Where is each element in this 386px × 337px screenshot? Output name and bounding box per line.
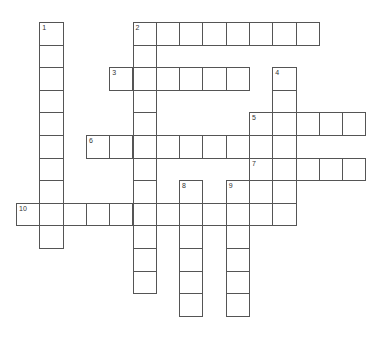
clue-number: 2 <box>136 24 140 31</box>
clue-number: 9 <box>229 182 233 189</box>
crossword-cell[interactable] <box>109 135 133 159</box>
crossword-cell[interactable] <box>272 135 296 159</box>
crossword-cell[interactable] <box>179 225 203 249</box>
crossword-cell[interactable] <box>226 22 250 46</box>
crossword-cell[interactable]: 5 <box>249 112 273 136</box>
clue-number: 3 <box>112 69 116 76</box>
crossword-cell[interactable] <box>39 225 63 249</box>
crossword-cell[interactable] <box>319 158 343 182</box>
clue-number: 6 <box>89 137 93 144</box>
crossword-cell[interactable] <box>133 67 157 91</box>
crossword-cell[interactable] <box>202 22 226 46</box>
clue-number: 7 <box>252 160 256 167</box>
crossword-cell[interactable] <box>226 248 250 272</box>
crossword-cell[interactable] <box>156 67 180 91</box>
crossword-cell[interactable] <box>272 22 296 46</box>
crossword-cell[interactable] <box>249 22 273 46</box>
crossword-cell[interactable] <box>226 135 250 159</box>
crossword-cell[interactable] <box>342 158 366 182</box>
crossword-cell[interactable] <box>202 135 226 159</box>
crossword-cell[interactable] <box>272 158 296 182</box>
crossword-cell[interactable] <box>63 203 87 227</box>
crossword-cell[interactable] <box>296 22 320 46</box>
crossword-cell[interactable] <box>272 203 296 227</box>
clue-number: 1 <box>42 24 46 31</box>
crossword-cell[interactable] <box>156 135 180 159</box>
crossword-cell[interactable] <box>39 158 63 182</box>
crossword-cell[interactable] <box>179 271 203 295</box>
crossword-cell[interactable]: 7 <box>249 158 273 182</box>
crossword-cell[interactable] <box>133 203 157 227</box>
crossword-cell[interactable] <box>202 67 226 91</box>
clue-number: 10 <box>19 205 27 212</box>
crossword-cell[interactable] <box>249 135 273 159</box>
crossword-cell[interactable] <box>133 225 157 249</box>
crossword-cell[interactable] <box>202 203 226 227</box>
crossword-cell[interactable] <box>133 158 157 182</box>
crossword-cell[interactable] <box>39 180 63 204</box>
crossword-cell[interactable] <box>272 180 296 204</box>
crossword-cell[interactable] <box>39 90 63 114</box>
crossword-cell[interactable] <box>86 203 110 227</box>
crossword-cell[interactable] <box>133 248 157 272</box>
crossword-cell[interactable] <box>39 203 63 227</box>
crossword-cell[interactable] <box>133 90 157 114</box>
crossword-cell[interactable] <box>179 135 203 159</box>
crossword-cell[interactable] <box>342 112 366 136</box>
crossword-cell[interactable]: 1 <box>39 22 63 46</box>
crossword-cell[interactable] <box>179 293 203 317</box>
crossword-cell[interactable]: 9 <box>226 180 250 204</box>
crossword-cell[interactable] <box>39 45 63 69</box>
crossword-cell[interactable] <box>133 271 157 295</box>
crossword-cell[interactable] <box>226 67 250 91</box>
crossword-cell[interactable] <box>272 112 296 136</box>
crossword-cell[interactable] <box>133 45 157 69</box>
clue-number: 8 <box>182 182 186 189</box>
crossword-grid: 12345678910 <box>0 0 386 337</box>
crossword-cell[interactable] <box>133 180 157 204</box>
crossword-cell[interactable] <box>319 112 343 136</box>
crossword-cell[interactable]: 2 <box>133 22 157 46</box>
crossword-cell[interactable] <box>249 203 273 227</box>
crossword-cell[interactable] <box>226 293 250 317</box>
crossword-cell[interactable] <box>39 67 63 91</box>
crossword-cell[interactable] <box>226 203 250 227</box>
crossword-cell[interactable]: 3 <box>109 67 133 91</box>
crossword-cell[interactable] <box>156 203 180 227</box>
crossword-cell[interactable] <box>179 67 203 91</box>
crossword-cell[interactable]: 4 <box>272 67 296 91</box>
crossword-cell[interactable] <box>179 203 203 227</box>
crossword-cell[interactable]: 6 <box>86 135 110 159</box>
crossword-cell[interactable] <box>109 203 133 227</box>
crossword-cell[interactable] <box>39 135 63 159</box>
crossword-cell[interactable] <box>296 112 320 136</box>
crossword-cell[interactable] <box>156 22 180 46</box>
clue-number: 4 <box>275 69 279 76</box>
crossword-cell[interactable] <box>133 112 157 136</box>
crossword-cell[interactable] <box>179 248 203 272</box>
crossword-cell[interactable] <box>179 22 203 46</box>
crossword-cell[interactable]: 10 <box>16 203 40 227</box>
crossword-cell[interactable] <box>296 158 320 182</box>
crossword-cell[interactable] <box>226 271 250 295</box>
crossword-cell[interactable] <box>39 112 63 136</box>
crossword-cell[interactable] <box>226 225 250 249</box>
crossword-cell[interactable]: 8 <box>179 180 203 204</box>
crossword-cell[interactable] <box>272 90 296 114</box>
crossword-cell[interactable] <box>133 135 157 159</box>
clue-number: 5 <box>252 114 256 121</box>
